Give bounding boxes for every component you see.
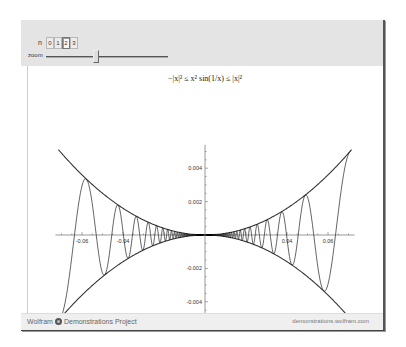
y-tick-label: -0.004 [186,299,202,305]
zoom-slider-thumb[interactable] [93,50,99,63]
setter-option-3[interactable]: 3 [70,37,78,49]
y-tick-label: -0.002 [186,265,202,271]
footer-brand-wolfram: Wolfram [27,318,53,325]
setter-label: n [38,39,42,46]
setter-option-2[interactable]: 2 [62,37,70,49]
control-panel: n 0 1 2 3 zoom [21,20,383,66]
setter-option-0[interactable]: 0 [46,37,54,49]
plot-svg: -0.06-0.040.040.060.0040.002-0.002-0.004 [28,66,382,313]
setter-option-1[interactable]: 1 [54,37,62,49]
footer-brand[interactable]: Wolfram Demonstrations Project [27,318,137,325]
y-tick-label: 0.002 [188,199,202,205]
x-tick-label: -0.04 [117,238,130,244]
oscillating-curve [58,151,351,313]
zoom-slider-label: zoom [28,52,43,58]
wolfram-spikey-icon [55,318,62,325]
y-tick-label: 0.004 [188,165,202,171]
demonstration-frame: n 0 1 2 3 zoom −|x|² ≤ x² sin(1/x) ≤ |x|… [21,20,385,331]
x-tick-label: -0.06 [76,238,89,244]
footer-bar: Wolfram Demonstrations Project demonstra… [21,313,383,330]
footer-url[interactable]: demonstrations.wolfram.com [292,318,369,324]
plot-area: −|x|² ≤ x² sin(1/x) ≤ |x|² -0.06-0.040.0… [27,66,382,313]
footer-brand-demonstrations: Demonstrations Project [64,318,137,325]
x-tick-label: 0.06 [323,238,334,244]
zoom-slider-track[interactable] [46,56,168,58]
n-setter-bar: 0 1 2 3 [46,37,78,49]
